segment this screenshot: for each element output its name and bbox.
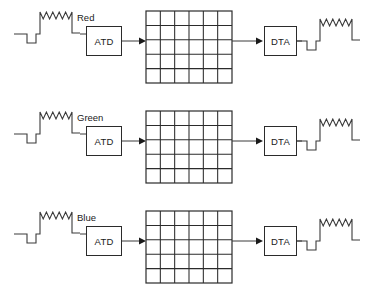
channel-row-red: RedATDDTA — [0, 0, 366, 100]
channel-label: Green — [77, 112, 103, 123]
digital-image-grid — [146, 111, 232, 183]
analog-output-waveform — [294, 19, 360, 50]
dac-box: DTA — [264, 226, 297, 256]
channel-label: Blue — [77, 212, 96, 223]
digital-image-grid — [146, 11, 232, 83]
adc-box: ATD — [86, 126, 122, 156]
analog-input-waveform — [14, 12, 80, 43]
signal-path-graphics — [0, 200, 366, 300]
adc-box: ATD — [86, 26, 122, 56]
dac-box: DTA — [264, 126, 297, 156]
arrow-head-icon — [139, 38, 146, 45]
adc-box: ATD — [86, 226, 122, 256]
analog-output-waveform — [294, 119, 360, 150]
digital-image-grid — [146, 211, 232, 283]
signal-path-graphics — [0, 100, 366, 200]
channel-label: Red — [77, 12, 94, 23]
analog-input-waveform — [14, 112, 80, 143]
arrow-head-icon — [256, 238, 263, 245]
arrow-head-icon — [139, 238, 146, 245]
arrow-head-icon — [256, 138, 263, 145]
analog-input-waveform — [14, 212, 80, 243]
arrow-head-icon — [256, 38, 263, 45]
signal-path-graphics — [0, 0, 366, 100]
rgb-conversion-diagram: RedATDDTAGreenATDDTABlueATDDTA — [0, 0, 366, 300]
channel-row-blue: BlueATDDTA — [0, 200, 366, 300]
arrow-head-icon — [139, 138, 146, 145]
analog-output-waveform — [294, 219, 360, 250]
channel-row-green: GreenATDDTA — [0, 100, 366, 200]
dac-box: DTA — [264, 26, 297, 56]
